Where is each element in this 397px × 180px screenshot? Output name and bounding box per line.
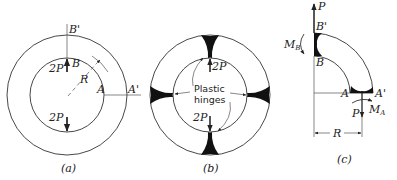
hinge-a	[350, 86, 373, 93]
hinge-top	[201, 35, 219, 58]
label-p-top: P	[317, 0, 326, 13]
label-a-prime: A'	[127, 83, 139, 96]
label-load-top-b: 2P	[211, 60, 227, 73]
leader-right	[230, 93, 246, 95]
label-b-prime-c: B'	[315, 20, 327, 33]
label-p-bottom: P	[351, 107, 360, 120]
label-a: A	[96, 83, 105, 96]
label-ma: MA	[368, 103, 385, 117]
label-hinges: hinges	[194, 94, 226, 105]
label-load-bottom: 2P	[48, 111, 64, 124]
label-load-bottom-b: 2P	[192, 111, 208, 124]
caption-a: (a)	[61, 162, 76, 175]
label-r: R	[79, 73, 88, 86]
leader-top	[192, 58, 203, 86]
label-load-top: 2P	[48, 62, 64, 75]
figure-ring-plastic-hinges: B' B 2P R A A' 2P (a) 2P Plastic hinges …	[0, 0, 397, 180]
panel-a: B' B 2P R A A' 2P (a)	[7, 23, 141, 175]
panel-c: P B' MB B A A' MA P R (c)	[283, 0, 386, 166]
label-b-c: B	[315, 56, 324, 69]
panel-b: 2P Plastic hinges 2P (b)	[150, 35, 270, 175]
label-mb: MB	[283, 38, 300, 52]
moment-b-arrow	[301, 34, 305, 54]
label-dimension-r: R	[332, 127, 341, 140]
label-plastic: Plastic	[194, 83, 225, 94]
caption-b: (b)	[203, 162, 219, 175]
hinge-b	[314, 33, 322, 56]
hinge-bottom	[201, 132, 219, 155]
hinge-right	[247, 86, 270, 104]
caption-c: (c)	[337, 153, 352, 166]
label-a-c: A	[340, 87, 349, 100]
label-b: B	[71, 57, 80, 70]
label-b-prime: B'	[68, 23, 80, 36]
leader-left	[175, 92, 190, 94]
hinge-left	[150, 86, 173, 104]
label-a-prime-c: A'	[374, 87, 386, 100]
